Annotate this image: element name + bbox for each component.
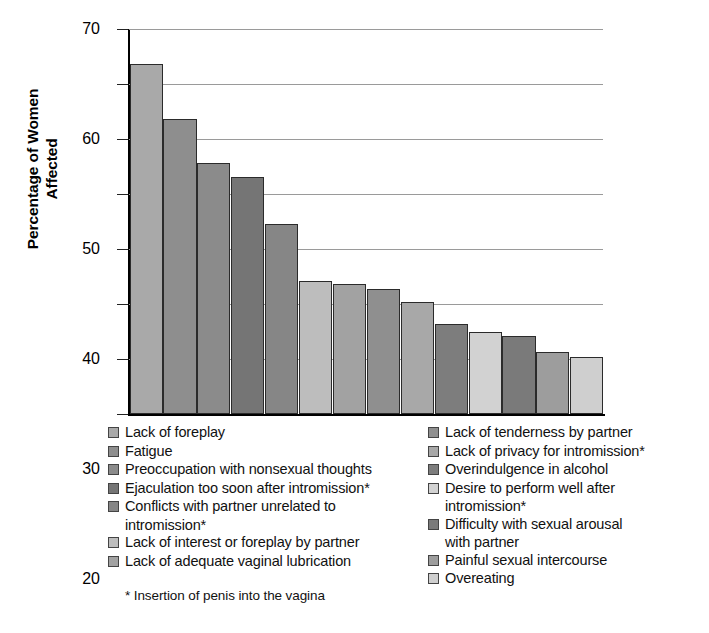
bar <box>130 64 163 414</box>
plot-area: 010203040506070 <box>129 29 603 414</box>
legend-swatch-icon <box>428 483 439 494</box>
legend-item-label: Lack of privacy for intromission* <box>445 443 645 461</box>
legend-swatch-icon <box>428 519 439 530</box>
legend-item-label-continued: with partner <box>428 534 708 552</box>
legend-item-label: Preoccupation with nonsexual thoughts <box>125 461 372 479</box>
legend-item[interactable]: Lack of privacy for intromission* <box>428 443 708 461</box>
legend-item[interactable]: Ejaculation too soon after intromission* <box>108 480 408 498</box>
legend-item[interactable]: Conflicts with partner unrelated to <box>108 498 408 516</box>
legend-item[interactable]: Overeating <box>428 570 708 588</box>
legend-swatch-icon <box>108 464 119 475</box>
legend: Lack of foreplayFatiguePreoccupation wit… <box>0 424 709 633</box>
legend-swatch-icon <box>428 464 439 475</box>
legend-item-label: Ejaculation too soon after intromission* <box>125 480 370 498</box>
legend-item-label: Lack of adequate vaginal lubrication <box>125 553 351 571</box>
legend-item-label: Desire to perform well after <box>445 480 615 498</box>
y-tick-mark: 30 <box>117 249 128 250</box>
bar <box>197 163 230 414</box>
bar <box>469 332 502 414</box>
x-axis-line <box>128 414 605 416</box>
legend-swatch-icon <box>108 501 119 512</box>
legend-item[interactable]: Lack of foreplay <box>108 424 408 442</box>
legend-swatch-icon <box>428 427 439 438</box>
legend-item-label: Overindulgence in alcohol <box>445 461 608 479</box>
y-tick-mark: 70 <box>117 29 128 30</box>
legend-swatch-icon <box>108 427 119 438</box>
legend-item[interactable]: Overindulgence in alcohol <box>428 461 708 479</box>
y-tick-label: 60 <box>82 130 100 148</box>
legend-item-label: Painful sexual intercourse <box>445 552 607 570</box>
gridline <box>129 84 603 85</box>
legend-column-right: Lack of tenderness by partnerLack of pri… <box>428 424 708 589</box>
gridline <box>129 139 603 140</box>
legend-item-label-continued: intromission* <box>108 517 408 535</box>
legend-item[interactable]: Lack of interest or foreplay by partner <box>108 534 408 552</box>
y-axis-title: Percentage of Women Affected <box>24 64 62 274</box>
legend-column-left: Lack of foreplayFatiguePreoccupation wit… <box>108 424 408 571</box>
legend-swatch-icon <box>108 556 119 567</box>
bar <box>401 302 434 414</box>
y-tick-mark: 20 <box>117 304 128 305</box>
legend-item-label: Difficulty with sexual arousal <box>445 516 622 534</box>
bar <box>163 119 196 414</box>
bar <box>333 284 366 414</box>
legend-item-label: Conflicts with partner unrelated to <box>125 498 336 516</box>
bar <box>570 357 603 414</box>
legend-item[interactable]: Preoccupation with nonsexual thoughts <box>108 461 408 479</box>
legend-item[interactable]: Difficulty with sexual arousal <box>428 516 708 534</box>
bar <box>536 352 569 414</box>
bar <box>265 224 298 414</box>
y-tick-label: 40 <box>82 350 100 368</box>
bar <box>231 177 264 414</box>
legend-item-label: Lack of foreplay <box>125 424 225 442</box>
y-tick-mark: 40 <box>117 194 128 195</box>
legend-swatch-icon <box>108 446 119 457</box>
bar-chart-figure: Percentage of Women Affected 01020304050… <box>0 0 709 633</box>
legend-item[interactable]: Lack of tenderness by partner <box>428 424 708 442</box>
gridline <box>129 29 603 30</box>
legend-swatch-icon <box>108 537 119 548</box>
y-tick-mark: 50 <box>117 139 128 140</box>
y-tick-mark: 60 <box>117 84 128 85</box>
y-tick-mark: 0 <box>117 414 128 415</box>
legend-item-label: Overeating <box>445 570 514 588</box>
legend-item[interactable]: Fatigue <box>108 443 408 461</box>
y-tick-label: 50 <box>82 240 100 258</box>
legend-item[interactable]: Desire to perform well after <box>428 480 708 498</box>
legend-swatch-icon <box>108 483 119 494</box>
bar <box>367 289 400 414</box>
bar <box>502 336 535 414</box>
footnote: * Insertion of penis into the vagina <box>125 588 325 603</box>
legend-item-label: Lack of interest or foreplay by partner <box>125 534 359 552</box>
bar <box>435 324 468 414</box>
bar <box>299 281 332 414</box>
legend-swatch-icon <box>428 446 439 457</box>
legend-swatch-icon <box>428 573 439 584</box>
legend-item[interactable]: Painful sexual intercourse <box>428 552 708 570</box>
y-tick-label: 70 <box>82 20 100 38</box>
legend-item[interactable]: Lack of adequate vaginal lubrication <box>108 553 408 571</box>
legend-swatch-icon <box>428 555 439 566</box>
legend-item-label: Lack of tenderness by partner <box>445 424 633 442</box>
plot-region: Percentage of Women Affected 01020304050… <box>0 0 709 425</box>
legend-item-label: Fatigue <box>125 443 172 461</box>
legend-item-label-continued: intromission* <box>428 498 708 516</box>
y-tick-mark: 10 <box>117 359 128 360</box>
